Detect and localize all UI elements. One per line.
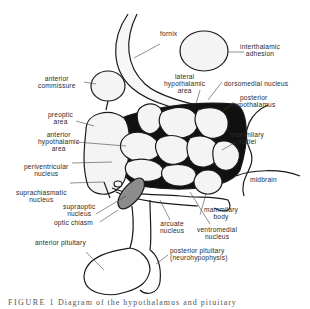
mammilary-body-shape bbox=[194, 170, 222, 194]
label-interthalamic-adhesion: interthalamic adhesion bbox=[240, 43, 280, 57]
figure-caption: FIGURE 1 Diagram of the hypothalamus and… bbox=[8, 298, 237, 307]
label-mammilary-body: mammilary body bbox=[204, 206, 238, 220]
caption-text: Diagram of the hypothalamus and pituitar… bbox=[58, 298, 237, 307]
label-lateral-hypothalamic-area: lateral hypothalamic area bbox=[164, 73, 205, 94]
label-anterior-hypothalamic-area: anterior hypothalamic area bbox=[38, 131, 79, 152]
label-mammilary-nuclei: mammilary nuclei bbox=[230, 131, 264, 145]
label-posterior-pituitary: posterior pituitary (neurohypophysis) bbox=[170, 247, 228, 261]
label-dorsomedial-nucleus: dorsomedial nucleus bbox=[224, 80, 288, 87]
anterior-pituitary-shape bbox=[84, 248, 150, 295]
label-optic-chiasm: optic chiasm bbox=[54, 219, 93, 226]
anterior-commissure-shape bbox=[91, 71, 125, 101]
label-anterior-commissure: anterior commissure bbox=[38, 75, 76, 89]
label-preoptic-area: preoptic area bbox=[48, 111, 73, 125]
interthalamic-adhesion-shape bbox=[180, 31, 228, 71]
label-supraoptic-nucleus: supraoptic nucleus bbox=[63, 203, 95, 217]
label-posterior-hypothalamus: posterior hypothalamus bbox=[232, 94, 275, 108]
label-midbrain: midbrain bbox=[250, 176, 277, 183]
hypothalamus-diagram: fornix interthalamic adhesion anterior c… bbox=[0, 0, 310, 309]
label-arcuate-nucleus: arcuate nucleus bbox=[160, 220, 184, 234]
label-periventricular-nucleus: periventricular nucleus bbox=[24, 163, 68, 177]
label-fornix: fornix bbox=[160, 30, 177, 37]
suprachiasmatic-shape bbox=[114, 181, 122, 187]
label-anterior-pituitary: anterior pituitary bbox=[35, 239, 86, 246]
label-ventromedial-nucleus: ventromedial nucleus bbox=[197, 226, 237, 240]
label-suprachiasmatic-nucleus: suprachiasmatic nucleus bbox=[16, 189, 67, 203]
caption-prefix: FIGURE 1 bbox=[8, 298, 55, 307]
